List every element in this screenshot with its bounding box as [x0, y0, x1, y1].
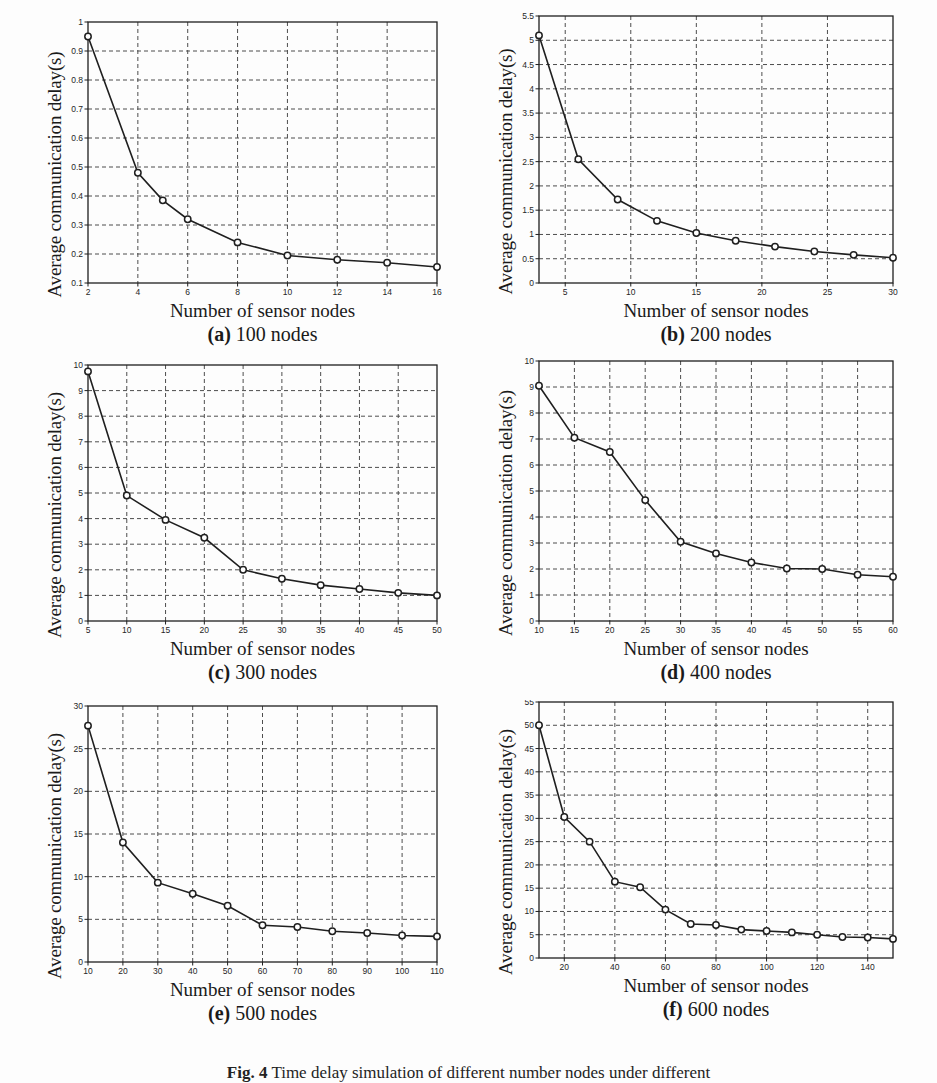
data-point-marker [713, 550, 719, 556]
y-tick-label: 6 [529, 460, 534, 470]
x-tick-label: 10 [83, 966, 93, 976]
panel-subcaption-prefix: (c) [208, 661, 230, 683]
y-tick-label: 1 [529, 229, 534, 239]
data-point-marker [279, 576, 285, 582]
panel-subcaption-e: (e) 500 nodes [28, 1002, 497, 1025]
data-point-marker [185, 216, 191, 222]
data-point-marker [536, 32, 542, 38]
y-tick-label: 3 [529, 538, 534, 548]
x-tick-label: 40 [610, 962, 620, 972]
y-tick-label: 15 [525, 883, 535, 893]
x-tick-label: 20 [118, 966, 128, 976]
data-point-marker [850, 252, 856, 258]
y-tick-label: 5 [529, 35, 534, 45]
y-tick-label: 3 [529, 132, 534, 142]
panel-c: 5101520253035404550012345678910Average c… [0, 355, 468, 700]
y-tick-label: 0.5 [522, 254, 534, 264]
x-tick-label: 8 [235, 287, 240, 297]
y-tick-label: 0 [78, 957, 83, 967]
y-tick-label: 5 [529, 486, 534, 496]
data-point-marker [814, 932, 820, 938]
x-axis-label: Number of sensor nodes [28, 979, 497, 1001]
y-tick-label: 15 [74, 829, 84, 839]
data-point-marker [434, 592, 440, 598]
x-tick-label: 35 [711, 625, 721, 635]
data-point-marker [190, 891, 196, 897]
data-point-marker [890, 936, 896, 942]
x-tick-label: 55 [853, 625, 863, 635]
data-point-marker [738, 926, 744, 932]
y-tick-label: 3.5 [522, 108, 534, 118]
x-tick-label: 25 [823, 287, 833, 297]
panel-b: 5101520253000.511.522.533.544.555.5Avera… [468, 0, 937, 355]
data-point-marker [384, 260, 390, 266]
data-point-marker [614, 196, 620, 202]
panel-e: 102030405060708090100110051015202530Aver… [0, 700, 468, 1055]
y-tick-label: 0.2 [71, 249, 83, 259]
x-tick-label: 2 [86, 287, 91, 297]
x-tick-label: 50 [432, 625, 442, 635]
y-tick-label: 2 [78, 565, 83, 575]
panel-subcaption-c: (c) 300 nodes [28, 661, 497, 684]
x-tick-label: 10 [626, 287, 636, 297]
x-tick-label: 5 [86, 625, 91, 635]
panel-subcaption-text: 100 nodes [231, 323, 318, 345]
data-point-marker [748, 559, 754, 565]
y-tick-label: 0.7 [71, 104, 83, 114]
data-point-marker [784, 565, 790, 571]
data-point-marker [536, 383, 542, 389]
x-tick-label: 10 [283, 287, 293, 297]
x-tick-label: 20 [605, 625, 615, 635]
y-tick-label: 30 [525, 813, 535, 823]
y-tick-label: 4 [529, 84, 534, 94]
y-tick-label: 10 [525, 906, 535, 916]
data-point-marker [732, 238, 738, 244]
data-point-marker [120, 839, 126, 845]
y-tick-label: 20 [74, 786, 84, 796]
figure-caption: Fig. 4 Time delay simulation of differen… [0, 1063, 937, 1083]
x-tick-label: 20 [200, 625, 210, 635]
data-point-marker [85, 722, 91, 728]
x-tick-label: 15 [692, 287, 702, 297]
data-point-marker [434, 264, 440, 270]
panel-subcaption-f: (f) 600 nodes [479, 998, 937, 1021]
data-point-marker [819, 566, 825, 572]
x-tick-label: 30 [277, 625, 287, 635]
data-point-marker [612, 878, 618, 884]
data-point-marker [688, 921, 694, 927]
data-point-marker [811, 248, 817, 254]
data-point-marker [240, 567, 246, 573]
x-tick-label: 25 [238, 625, 248, 635]
x-tick-label: 4 [135, 287, 140, 297]
x-tick-label: 12 [333, 287, 343, 297]
x-tick-label: 100 [395, 966, 409, 976]
data-point-marker [693, 230, 699, 236]
data-point-marker [135, 170, 141, 176]
y-tick-label: 0 [529, 616, 534, 626]
y-tick-label: 4.5 [522, 60, 534, 70]
y-axis-label: Average communication delay(s) [495, 675, 517, 975]
y-axis-label: Average communication delay(s) [44, 0, 66, 298]
x-tick-label: 120 [810, 962, 824, 972]
y-tick-label: 4 [529, 512, 534, 522]
x-tick-label: 6 [185, 287, 190, 297]
y-tick-label: 10 [74, 872, 84, 882]
y-tick-label: 5 [78, 488, 83, 498]
y-tick-label: 0.8 [71, 75, 83, 85]
panel-a: 2468101214160.10.20.30.40.50.60.70.80.91… [0, 0, 468, 355]
data-series-line [88, 37, 437, 268]
x-tick-label: 15 [570, 625, 580, 635]
y-axis-label: Average communication delay(s) [44, 679, 66, 979]
data-point-marker [586, 838, 592, 844]
panel-a-inner: 2468101214160.10.20.30.40.50.60.70.80.91… [0, 0, 468, 355]
data-point-marker [399, 932, 405, 938]
y-tick-label: 5 [529, 930, 534, 940]
x-tick-label: 40 [747, 625, 757, 635]
x-tick-label: 50 [817, 625, 827, 635]
x-tick-label: 40 [355, 625, 365, 635]
data-point-marker [259, 922, 265, 928]
data-point-marker [677, 539, 683, 545]
y-tick-label: 9 [78, 386, 83, 396]
data-point-marker [642, 497, 648, 503]
data-point-marker [201, 535, 207, 541]
